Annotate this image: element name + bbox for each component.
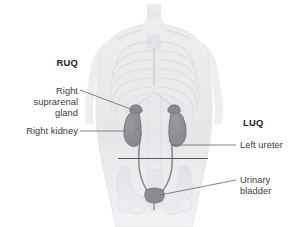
organ-label-right-suprarenal-gland: Right suprarenal gland bbox=[6, 86, 78, 120]
left-suprarenal-gland-shape bbox=[168, 105, 180, 114]
quadrant-label-ruq: RUQ bbox=[28, 57, 78, 68]
quadrant-label-luq: LUQ bbox=[243, 117, 293, 128]
organ-label-urinary-bladder: Urinary bladder bbox=[240, 175, 306, 197]
anatomy-figure: RUQ Right suprarenal gland Right kidney … bbox=[0, 0, 306, 227]
organ-label-left-ureter: Left ureter bbox=[240, 140, 306, 151]
organ-label-right-kidney: Right kidney bbox=[0, 126, 78, 137]
